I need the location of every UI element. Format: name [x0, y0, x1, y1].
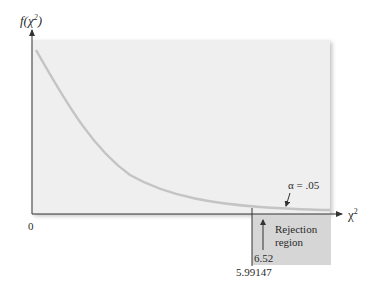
plot-panel [32, 40, 330, 214]
critical-value-label: 5.99147 [236, 266, 272, 278]
x-axis-label: χ2 [347, 207, 358, 222]
test-statistic-label: 6.52 [254, 252, 273, 264]
rejection-region-label-line1: Rejection [275, 223, 318, 235]
alpha-label: α = .05 [288, 179, 320, 191]
origin-label: 0 [28, 220, 34, 232]
chi-square-chart: f(χ2) χ2 0 α = .05 Rejection region 6.52… [0, 0, 377, 301]
rejection-region-label-line2: region [275, 236, 304, 248]
y-axis-label: f(χ2) [20, 13, 42, 28]
